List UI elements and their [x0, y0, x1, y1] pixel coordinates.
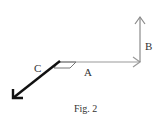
label-a: A	[84, 66, 92, 78]
label-b: B	[145, 40, 152, 52]
vector-b	[135, 17, 145, 62]
figure-caption: Fig. 2	[74, 103, 97, 114]
label-c: C	[34, 62, 41, 74]
vector-diagram: A B C Fig. 2	[0, 0, 162, 121]
